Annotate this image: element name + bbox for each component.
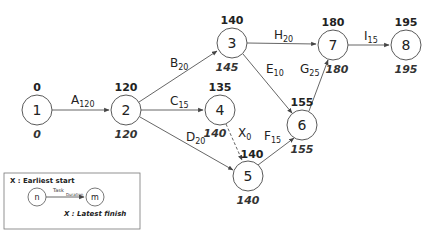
earliest-start: 180 xyxy=(322,16,345,29)
node-6: 6 155 155 xyxy=(287,96,317,156)
node-id: 4 xyxy=(216,102,225,118)
legend-start-node-label: n xyxy=(34,193,39,202)
edge-label-e: E10 xyxy=(266,62,284,78)
edge-label-i: I15 xyxy=(364,29,378,45)
legend-earliest-start: X : Earliest start xyxy=(10,177,75,185)
node-id: 7 xyxy=(329,37,338,53)
legend-task-label: Task xyxy=(52,187,64,193)
node-id: 6 xyxy=(298,117,307,133)
network-diagram: A120 B20 C15 D20 E10 F15 G25 H20 I15 X0 … xyxy=(0,0,433,235)
earliest-start: 120 xyxy=(115,81,138,94)
latest-finish: 145 xyxy=(216,61,239,74)
earliest-start: 195 xyxy=(395,16,418,29)
legend: X : Earliest start n Task Duration m X :… xyxy=(4,173,140,229)
node-id: 8 xyxy=(402,37,411,53)
node-4: 4 135 140 xyxy=(204,81,235,140)
latest-finish: 120 xyxy=(115,128,138,141)
earliest-start: 155 xyxy=(291,96,314,109)
earliest-start: 140 xyxy=(241,148,264,161)
latest-finish: 180 xyxy=(326,63,349,76)
node-id: 5 xyxy=(244,168,253,184)
node-5: 5 140 140 xyxy=(233,148,264,207)
latest-finish: 140 xyxy=(237,194,260,207)
node-7: 7 180 180 xyxy=(318,16,349,76)
node-id: 3 xyxy=(228,35,237,51)
node-1: 1 0 0 xyxy=(22,81,52,141)
node-2: 2 120 120 xyxy=(111,81,141,141)
latest-finish: 195 xyxy=(395,63,418,76)
edge-label-f: F15 xyxy=(264,129,281,145)
latest-finish: 0 xyxy=(33,128,41,141)
latest-finish: 140 xyxy=(204,127,227,140)
earliest-start: 135 xyxy=(209,81,232,94)
node-3: 3 140 145 xyxy=(216,14,247,74)
edge-label-a: A120 xyxy=(71,93,95,109)
earliest-start: 140 xyxy=(221,14,244,27)
edge-label-h: H20 xyxy=(274,28,293,44)
node-8: 8 195 195 xyxy=(391,16,421,76)
edge-label-g: G25 xyxy=(300,62,320,78)
node-id: 1 xyxy=(33,102,42,118)
legend-duration-label: Duration xyxy=(66,192,84,197)
edge-label-d: D20 xyxy=(186,130,205,146)
legend-end-node-label: m xyxy=(91,193,99,202)
edge-label-b: B20 xyxy=(170,56,188,72)
latest-finish: 155 xyxy=(291,143,314,156)
edge-h xyxy=(247,43,316,44)
node-id: 2 xyxy=(122,102,131,118)
legend-latest-finish: X : Latest finish xyxy=(63,210,126,218)
edge-label-c: C15 xyxy=(170,94,189,110)
earliest-start: 0 xyxy=(33,81,41,94)
edge-label-x: X0 xyxy=(238,126,251,142)
